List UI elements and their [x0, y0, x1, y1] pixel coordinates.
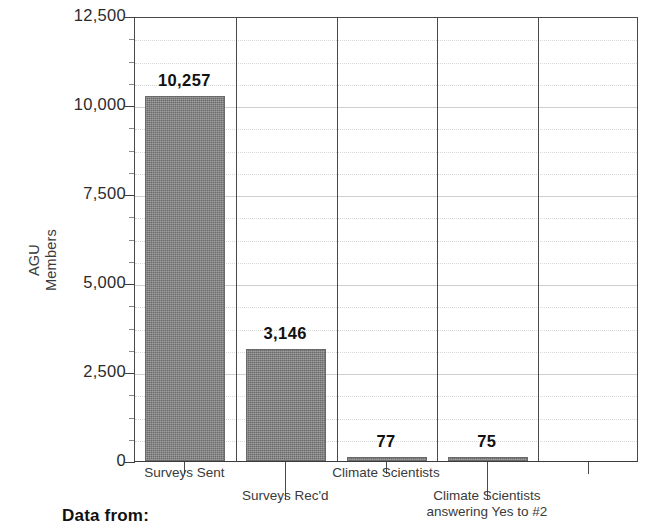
x-axis-category-label-line: answering Yes to #2 — [377, 504, 597, 520]
bar-value-label: 10,257 — [124, 71, 244, 90]
y-axis-tick-label: 5,000 — [40, 273, 126, 292]
minor-gridline — [135, 40, 637, 41]
bar-value-label: 3,146 — [225, 324, 345, 343]
data-from-note: Data from: — [62, 506, 149, 526]
x-axis-category-label: Surveys Sent — [74, 465, 294, 481]
bar — [448, 457, 528, 461]
x-axis-category-label: Climate Scientists — [276, 465, 496, 481]
x-axis-category-label-line: Surveys Rec'd — [175, 488, 395, 504]
category-cell-divider — [337, 18, 338, 461]
x-axis-category-label: Climate Scientistsanswering Yes to #2 — [377, 488, 597, 520]
y-axis-tick-label: 7,500 — [40, 184, 126, 203]
y-axis-tick-label: 12,500 — [40, 6, 126, 25]
x-axis-category-label-line: Climate Scientists — [276, 465, 496, 481]
bar-value-label: 75 — [427, 432, 547, 451]
minor-gridline — [135, 63, 637, 64]
y-axis-tick-label: 10,000 — [40, 95, 126, 114]
bar — [145, 96, 225, 461]
y-axis-tick-label: 2,500 — [40, 362, 126, 381]
x-axis-tick — [588, 462, 589, 474]
x-axis-category-label: Surveys Rec'd — [175, 488, 395, 504]
category-cell-divider — [437, 18, 438, 461]
bar-chart-figure: AGU Members 02,5005,0007,50010,00012,500… — [0, 0, 651, 530]
y-axis-tick-labels: 02,5005,0007,50010,00012,500 — [30, 0, 126, 530]
x-axis-category-label-line: Climate Scientists — [377, 488, 597, 504]
y-axis-major-tick — [124, 462, 135, 463]
category-cell-divider — [538, 18, 539, 461]
x-axis-category-label-line: Surveys Sent — [74, 465, 294, 481]
bar — [246, 349, 326, 461]
bar — [347, 457, 427, 461]
